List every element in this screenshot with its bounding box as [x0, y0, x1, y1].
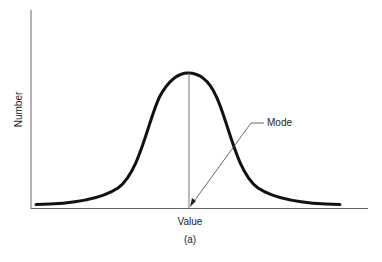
- y-axis-label: Number: [13, 90, 24, 130]
- mode-annotation: Mode: [267, 117, 292, 128]
- figure-caption: (a): [178, 234, 202, 245]
- x-axis-label: Value: [175, 216, 205, 227]
- mode-leader-line: [192, 123, 264, 204]
- bell-curve: [36, 73, 340, 205]
